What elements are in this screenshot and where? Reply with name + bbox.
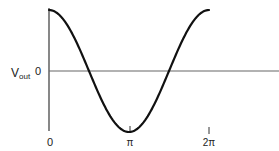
y-zero-label: 0 <box>35 65 41 77</box>
vout-cosine-plot: Vout 0 0 π 2π <box>0 0 279 151</box>
x-tick-label-pi: π <box>127 137 134 148</box>
x-tick-label-2pi: 2π <box>203 137 216 148</box>
x-tick-label-0: 0 <box>47 136 53 148</box>
y-axis-label: Vout <box>11 66 31 81</box>
